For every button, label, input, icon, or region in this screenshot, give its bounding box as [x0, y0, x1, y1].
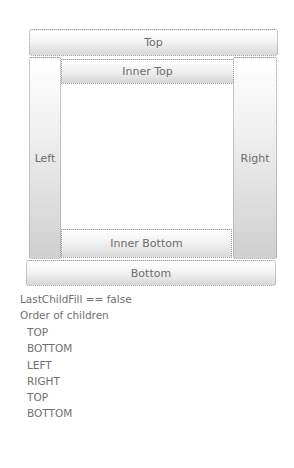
list-item: LEFT [27, 357, 72, 373]
list-item: BOTTOM [27, 340, 72, 356]
last-child-fill-text: LastChildFill == false [20, 292, 132, 307]
children-order-list: TOP BOTTOM LEFT RIGHT TOP BOTTOM [27, 324, 72, 422]
left-panel: Left [29, 57, 61, 259]
fill-area [62, 85, 232, 228]
bottom-label: Bottom [131, 267, 171, 280]
right-panel: Right [233, 57, 277, 259]
left-label: Left [35, 152, 56, 165]
bottom-panel: Bottom [26, 260, 276, 286]
list-item: TOP [27, 324, 72, 340]
list-item: TOP [27, 389, 72, 405]
inner-bottom-label: Inner Bottom [110, 237, 182, 250]
list-item: RIGHT [27, 373, 72, 389]
top-panel: Top [29, 29, 278, 56]
top-label: Top [144, 36, 163, 49]
list-item: BOTTOM [27, 405, 72, 421]
right-label: Right [241, 152, 270, 165]
inner-top-panel: Inner Top [61, 59, 234, 84]
order-heading: Order of children [20, 308, 109, 323]
inner-top-label: Inner Top [122, 65, 173, 78]
inner-bottom-panel: Inner Bottom [61, 229, 232, 258]
